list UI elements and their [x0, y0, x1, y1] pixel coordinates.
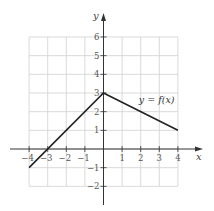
x-tick-label: −2 — [59, 153, 72, 163]
y-tick-label: 4 — [94, 69, 99, 79]
y-tick-label: 3 — [94, 88, 99, 98]
function-label: y = f(x) — [138, 94, 175, 105]
y-axis-label: y — [92, 10, 99, 21]
x-tick-label: 1 — [119, 153, 124, 163]
x-axis-label: x — [196, 151, 202, 162]
x-tick-label: −1 — [77, 153, 90, 163]
x-tick-label: 4 — [175, 153, 180, 163]
y-tick-label: 2 — [94, 107, 99, 117]
y-tick-label: 5 — [94, 51, 99, 61]
x-tick-label: −4 — [21, 153, 34, 163]
function-graph: −4−3−2−11234−2−1123456 x y y = f(x) — [0, 0, 214, 211]
y-tick-label: −1 — [87, 163, 100, 173]
x-tick-label: 3 — [157, 153, 162, 163]
y-tick-label: 1 — [94, 125, 99, 135]
x-tick-label: 2 — [138, 153, 143, 163]
y-tick-label: −2 — [87, 181, 100, 191]
y-tick-label: 6 — [94, 32, 99, 42]
y-axis-arrow-icon — [101, 13, 106, 21]
axes — [10, 13, 203, 205]
